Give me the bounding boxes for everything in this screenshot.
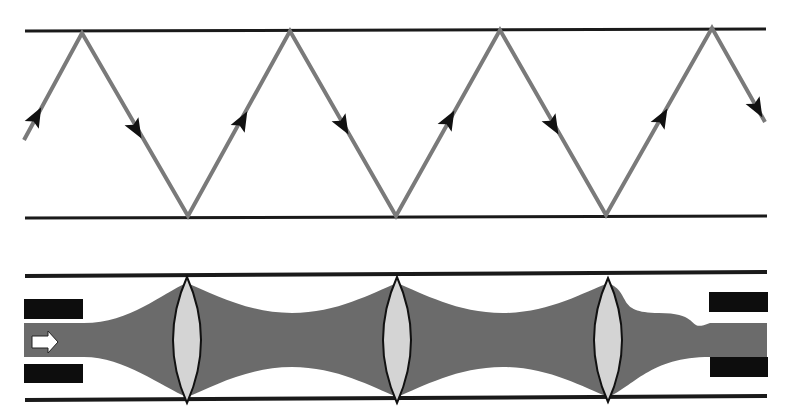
top-rail [25,272,767,276]
input-aperture-block-2 [24,364,83,383]
output-aperture-block-1 [709,292,768,312]
direction-arrow-icon [332,113,356,138]
direction-arrow-icon [438,106,462,131]
ray-reflection-panel [24,28,769,218]
input-aperture-block-1 [24,299,83,319]
output-aperture-block-2 [710,357,768,377]
diagram-canvas [0,0,795,407]
direction-arrow-icon [746,96,770,121]
lens-waveguide-panel [24,272,768,403]
top-mirror [25,29,766,31]
direction-arrow-icon [25,104,49,129]
